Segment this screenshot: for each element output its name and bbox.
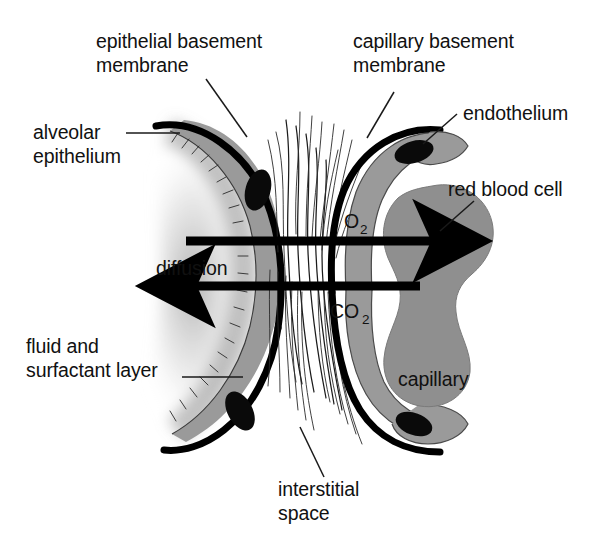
diagram-canvas: epithelial basement membrane capillary b…	[0, 0, 596, 542]
alveolar-capillary-membrane-svg: epithelial basement membrane capillary b…	[0, 0, 596, 542]
background	[0, 0, 596, 542]
label-diffusion: diffusion	[156, 257, 227, 279]
label-alveolar-epithelium-line1: alveolar	[33, 121, 101, 143]
label-interstitial-space-line1: interstitial	[278, 478, 359, 500]
label-epithelial-basement-membrane-line1: epithelial basement	[96, 30, 263, 52]
label-fluid-and-surfactant-layer-line2: surfactant layer	[26, 359, 158, 381]
label-oxygen-symbol: O	[344, 210, 359, 232]
label-alveolar-epithelium-line2: epithelium	[33, 145, 121, 167]
label-interstitial-space-line2: space	[278, 502, 330, 524]
label-capillary-basement-membrane-line1: capillary basement	[353, 30, 514, 52]
label-red-blood-cell: red blood cell	[448, 178, 563, 200]
label-fluid-and-surfactant-layer-line1: fluid and	[26, 335, 99, 357]
label-carbon-dioxide-subscript: 2	[362, 312, 370, 327]
label-capillary-basement-membrane-line2: membrane	[353, 54, 445, 76]
label-oxygen-subscript: 2	[360, 222, 368, 237]
label-endothelium: endothelium	[463, 102, 568, 124]
label-epithelial-basement-membrane-line2: membrane	[96, 54, 188, 76]
label-capillary: capillary	[398, 368, 469, 390]
label-carbon-dioxide-symbol: CO	[330, 300, 359, 322]
